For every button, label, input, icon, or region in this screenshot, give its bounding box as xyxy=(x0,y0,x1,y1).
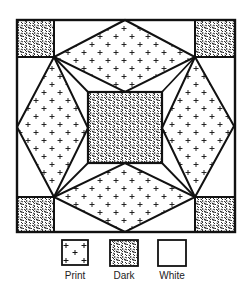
corner-square-top-right xyxy=(195,20,235,57)
legend-swatch-white xyxy=(158,240,186,266)
legend-label-print: Print xyxy=(55,270,95,281)
corner-square-bottom-left xyxy=(17,197,54,232)
quilt-block-diagram xyxy=(0,0,250,286)
legend-label-white: White xyxy=(152,270,192,281)
corner-square-bottom-right xyxy=(195,197,235,232)
legend xyxy=(62,240,186,266)
legend-label-dark: Dark xyxy=(104,270,144,281)
center-square xyxy=(88,92,162,163)
legend-swatch-dark xyxy=(110,240,138,266)
corner-square-top-left xyxy=(17,20,54,57)
